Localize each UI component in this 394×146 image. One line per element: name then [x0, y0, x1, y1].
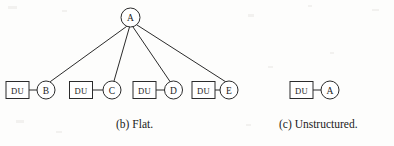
node-b-label: B — [43, 86, 49, 96]
node-e-label: E — [226, 86, 232, 96]
leaf-group-c[interactable]: DU C — [70, 81, 122, 99]
du-box-d-label: DU — [138, 86, 151, 96]
edge-a-to-c — [114, 27, 130, 81]
node-a-unstructured-label: A — [327, 86, 334, 96]
du-box-c-label: DU — [75, 86, 88, 96]
caption-flat: (b) Flat. — [116, 118, 153, 130]
unstructured-group-a[interactable]: DU A — [290, 81, 339, 99]
caption-unstructured: (c) Unstructured. — [279, 118, 358, 130]
du-box-b-label: DU — [11, 86, 24, 96]
flat-panel-edges — [51, 25, 227, 82]
du-box-e-label: DU — [197, 86, 210, 96]
node-root-a-label: A — [127, 13, 134, 23]
node-d-label: D — [170, 86, 177, 96]
node-root-a[interactable]: A — [121, 8, 140, 27]
du-box-unstructured-label: DU — [295, 86, 308, 96]
leaf-group-d[interactable]: DU D — [133, 81, 183, 99]
edge-a-to-e — [137, 25, 226, 82]
edge-a-to-b — [51, 27, 127, 82]
figure-container: A DU B DU C DU D — [0, 0, 394, 146]
node-c-label: C — [109, 86, 115, 96]
leaf-group-e[interactable]: DU E — [192, 81, 238, 99]
edge-a-to-d — [133, 27, 170, 82]
leaf-group-b[interactable]: DU B — [6, 81, 55, 99]
